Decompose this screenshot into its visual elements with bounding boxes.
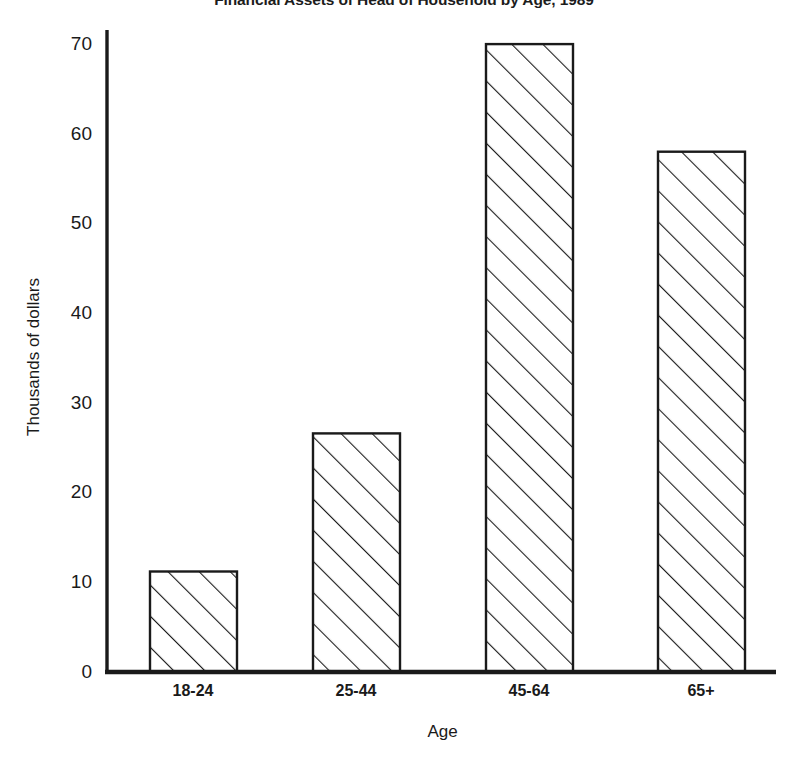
y-tick-label-50: 50 — [36, 213, 92, 232]
x-tick-label-45-64: 45-64 — [459, 683, 599, 699]
y-tick-label-60: 60 — [36, 124, 92, 143]
x-tick-label-65plus: 65+ — [631, 683, 771, 699]
bar-chart-plot — [0, 0, 808, 772]
bar-65plus — [658, 152, 745, 672]
y-tick-label-30: 30 — [36, 393, 92, 412]
y-tick-label-10: 10 — [36, 572, 92, 591]
y-tick-label-20: 20 — [36, 482, 92, 501]
chart-page: Financial Assets of Head of Household by… — [0, 0, 808, 772]
bars-group — [150, 44, 745, 672]
y-tick-label-70: 70 — [36, 34, 92, 53]
y-tick-label-0: 0 — [36, 662, 92, 681]
bar-25-44 — [313, 433, 400, 672]
bar-45-64 — [486, 44, 573, 672]
bar-18-24 — [150, 572, 237, 673]
x-tick-label-25-44: 25-44 — [286, 683, 426, 699]
y-tick-label-40: 40 — [36, 303, 92, 322]
x-tick-label-18-24: 18-24 — [123, 683, 263, 699]
